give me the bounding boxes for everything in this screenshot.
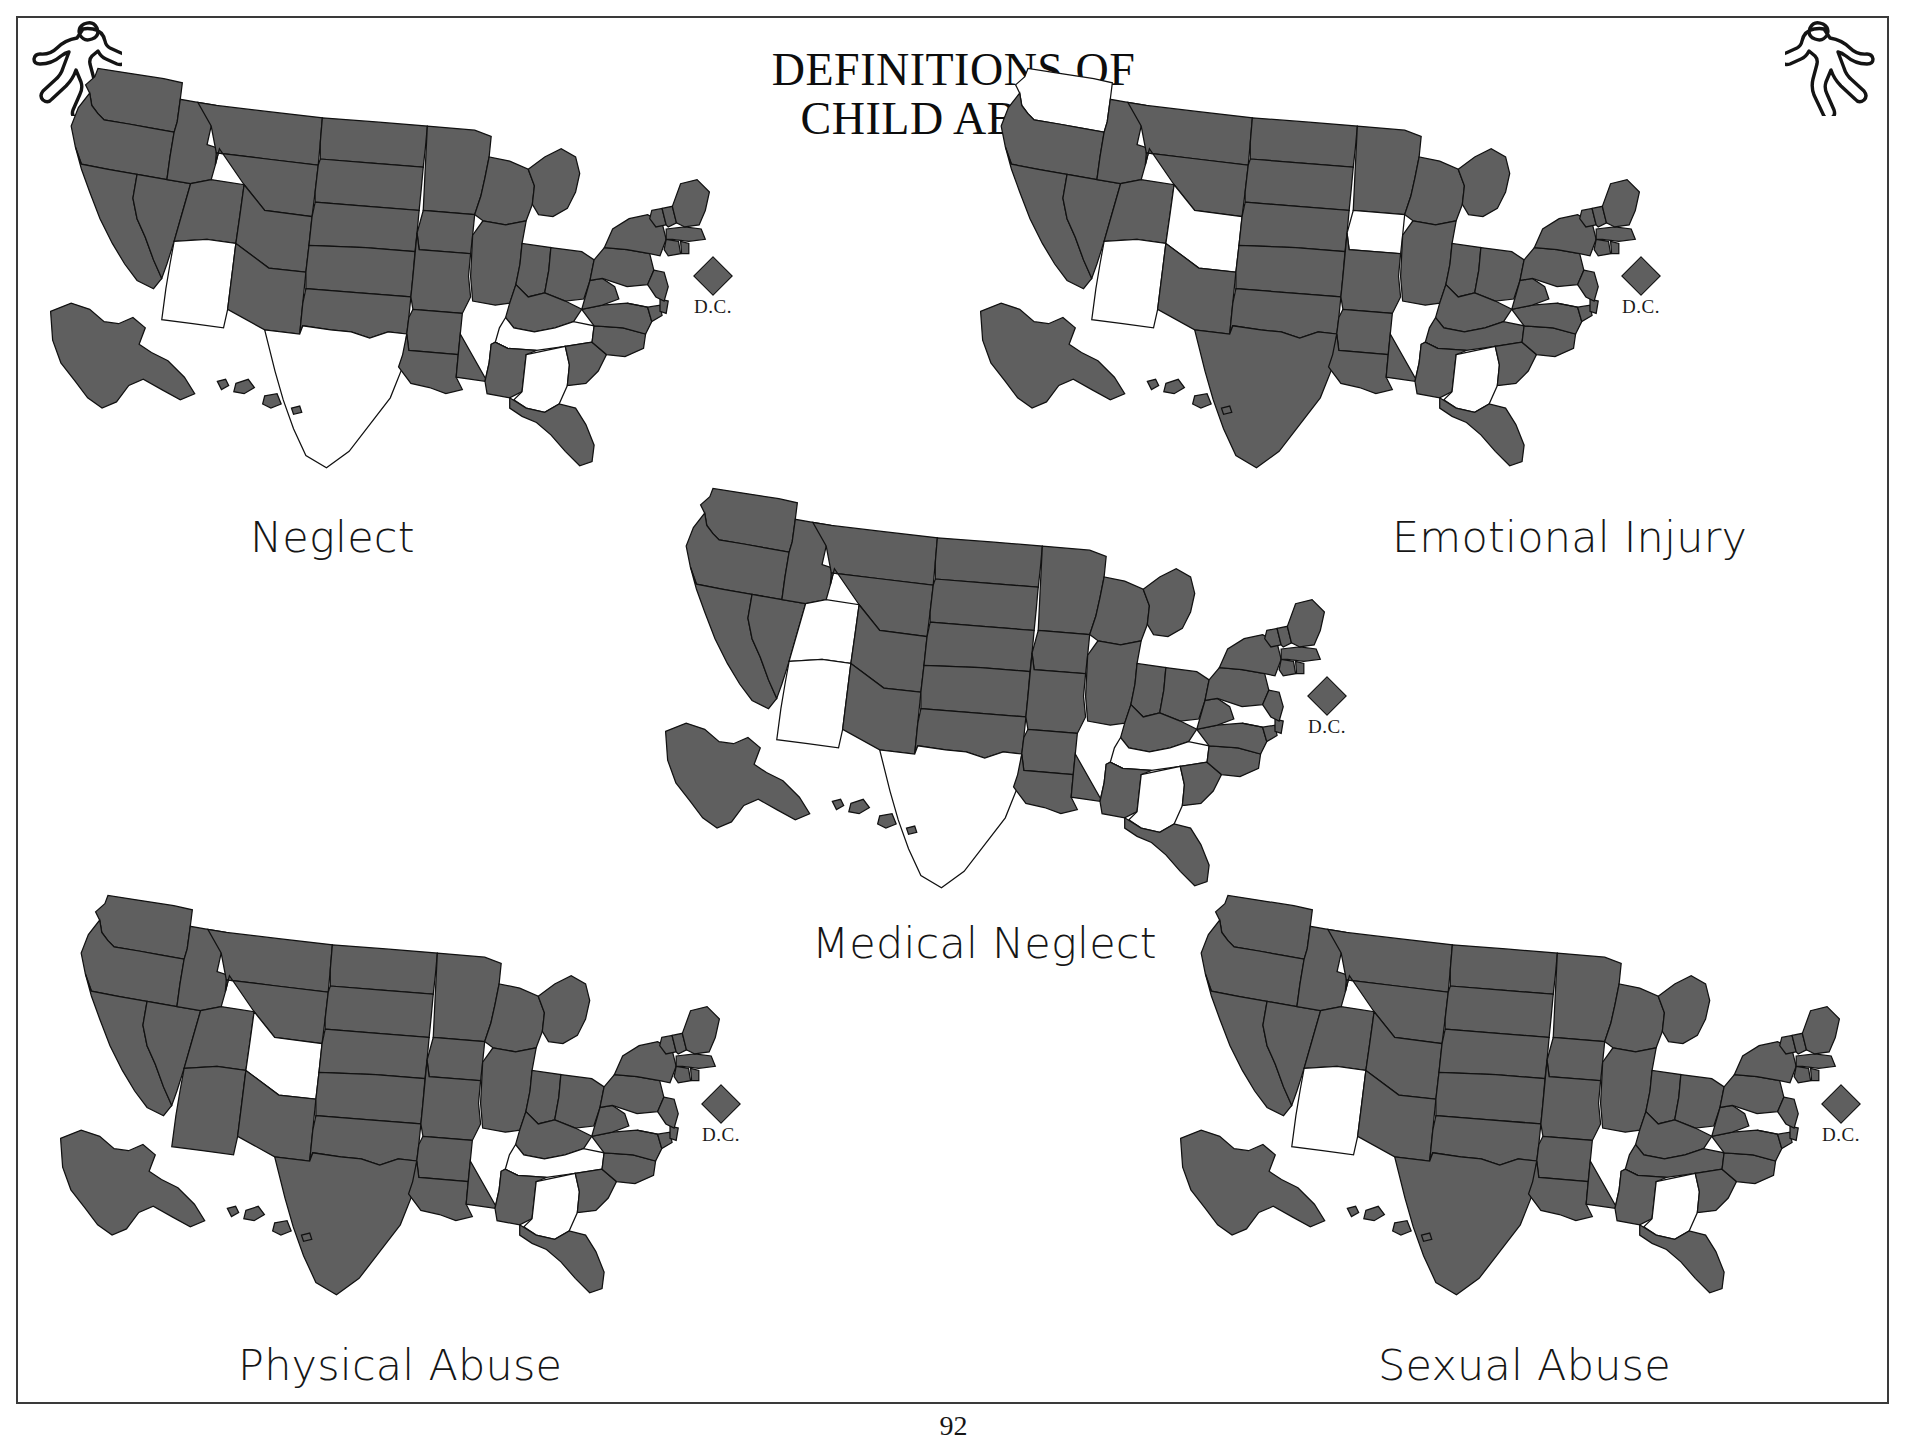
state-ne[interactable] (1239, 202, 1349, 251)
state-fl[interactable] (510, 398, 594, 466)
state-ks[interactable] (1436, 1072, 1545, 1123)
state-mi[interactable] (1143, 569, 1194, 637)
state-hi[interactable] (1193, 394, 1212, 408)
state-ma[interactable] (1796, 1054, 1835, 1068)
state-ne[interactable] (1439, 1029, 1549, 1078)
state-tx[interactable] (275, 1153, 417, 1295)
state-az[interactable] (162, 239, 236, 328)
state-me[interactable] (1287, 600, 1324, 647)
state-hi[interactable] (244, 1206, 265, 1220)
state-hi[interactable] (301, 1233, 311, 1241)
state-mi[interactable] (1458, 149, 1509, 217)
state-ar[interactable] (1022, 729, 1078, 774)
state-sd[interactable] (315, 159, 423, 210)
state-ri[interactable] (1611, 241, 1619, 253)
state-me[interactable] (1802, 1007, 1839, 1054)
state-ia[interactable] (1032, 630, 1090, 673)
diamond-icon (1621, 256, 1661, 296)
state-ma[interactable] (1281, 647, 1320, 661)
state-ks[interactable] (306, 245, 415, 296)
state-me[interactable] (672, 180, 709, 227)
state-ct[interactable] (664, 239, 680, 255)
state-az[interactable] (1092, 239, 1166, 328)
state-ne[interactable] (924, 622, 1034, 671)
state-tx[interactable] (880, 746, 1022, 888)
state-tx[interactable] (1195, 326, 1337, 468)
state-ma[interactable] (1596, 227, 1635, 241)
state-hi[interactable] (227, 1206, 238, 1216)
state-fl[interactable] (520, 1225, 604, 1293)
state-ri[interactable] (1296, 661, 1304, 673)
state-me[interactable] (1602, 180, 1639, 227)
state-hi[interactable] (878, 814, 897, 828)
state-hi[interactable] (1221, 406, 1231, 414)
state-hi[interactable] (273, 1221, 292, 1235)
state-ia[interactable] (1347, 210, 1405, 253)
state-mi[interactable] (528, 149, 579, 217)
state-az[interactable] (172, 1066, 246, 1155)
state-hi[interactable] (832, 799, 843, 809)
state-ar[interactable] (1337, 309, 1393, 354)
state-ct[interactable] (1279, 659, 1295, 675)
map-neglect[interactable] (30, 58, 730, 458)
state-fl[interactable] (1440, 398, 1524, 466)
dc-label: D.C. (702, 1124, 740, 1146)
state-ma[interactable] (676, 1054, 715, 1068)
state-hi[interactable] (1421, 1233, 1431, 1241)
dc-label: D.C. (1308, 716, 1346, 738)
map-sexual-abuse[interactable] (1160, 885, 1860, 1285)
state-ct[interactable] (1594, 239, 1610, 255)
dc-marker-emotional-injury: D.C. (1622, 262, 1660, 318)
state-hi[interactable] (1364, 1206, 1385, 1220)
state-me[interactable] (682, 1007, 719, 1054)
state-fl[interactable] (1640, 1225, 1724, 1293)
state-ma[interactable] (666, 227, 705, 241)
state-ri[interactable] (1811, 1068, 1819, 1080)
state-ia[interactable] (1547, 1037, 1605, 1080)
state-ri[interactable] (681, 241, 689, 253)
state-ne[interactable] (309, 202, 419, 251)
state-az[interactable] (1292, 1066, 1366, 1155)
state-hi[interactable] (291, 406, 301, 414)
state-ar[interactable] (407, 309, 463, 354)
state-ia[interactable] (427, 1037, 485, 1080)
state-tx[interactable] (265, 326, 407, 468)
state-hi[interactable] (1147, 379, 1158, 389)
dc-marker-medical-neglect: D.C. (1308, 682, 1346, 738)
state-ne[interactable] (319, 1029, 429, 1078)
us-map-svg (40, 885, 740, 1297)
state-hi[interactable] (1347, 1206, 1358, 1216)
map-medical-neglect[interactable] (645, 478, 1345, 878)
state-hi[interactable] (217, 379, 228, 389)
state-ks[interactable] (921, 665, 1030, 716)
state-ct[interactable] (1794, 1066, 1810, 1082)
state-ct[interactable] (674, 1066, 690, 1082)
state-sd[interactable] (1445, 986, 1553, 1037)
us-map-svg (1160, 885, 1860, 1297)
map-caption-medical-neglect: Medical Neglect (812, 918, 1157, 968)
state-hi[interactable] (1164, 379, 1185, 393)
state-mi[interactable] (1658, 976, 1709, 1044)
state-ar[interactable] (1537, 1136, 1593, 1181)
state-hi[interactable] (263, 394, 282, 408)
state-hi[interactable] (849, 799, 870, 813)
state-fl[interactable] (1125, 818, 1209, 886)
state-hi[interactable] (234, 379, 255, 393)
state-sd[interactable] (1245, 159, 1353, 210)
map-physical-abuse[interactable] (40, 885, 740, 1285)
state-ks[interactable] (1236, 245, 1345, 296)
state-mi[interactable] (538, 976, 589, 1044)
state-az[interactable] (777, 659, 851, 748)
state-hi[interactable] (906, 826, 916, 834)
state-sd[interactable] (325, 986, 433, 1037)
diamond-icon (1821, 1084, 1861, 1124)
state-ks[interactable] (316, 1072, 425, 1123)
state-sd[interactable] (930, 579, 1038, 630)
state-ia[interactable] (417, 210, 475, 253)
state-ri[interactable] (691, 1068, 699, 1080)
map-emotional-injury[interactable] (960, 58, 1660, 458)
map-caption-emotional-injury: Emotional Injury (1392, 512, 1747, 562)
state-hi[interactable] (1393, 1221, 1412, 1235)
state-ar[interactable] (417, 1136, 473, 1181)
state-tx[interactable] (1395, 1153, 1537, 1295)
